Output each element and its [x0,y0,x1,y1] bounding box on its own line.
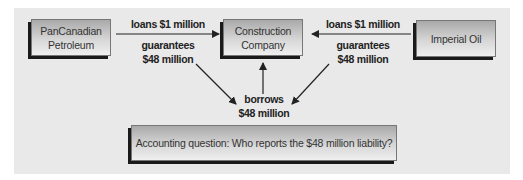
left-guarantee-label-1: guarantees [128,38,208,52]
right-guarantee-label-2: $48 million [323,52,403,66]
pancanadian-line2: Petroleum [40,38,101,52]
left-guarantee-label-2: $48 million [128,52,208,66]
imperial-oil-box: Imperial Oil [416,20,496,57]
accounting-question-text: Accounting question: Who reports the $48… [136,136,393,150]
pancanadian-line1: PanCanadian [40,24,101,38]
borrows-label-2: $48 million [224,106,304,120]
right-loan-label: loans $1 million [323,17,403,31]
construction-company-box: Construction Company [223,19,303,56]
pancanadian-petroleum-box: PanCanadian Petroleum [31,19,111,56]
imperial-line1: Imperial Oil [431,32,482,46]
construction-line2: Company [235,38,292,52]
construction-line1: Construction [235,24,292,38]
right-guarantee-label-1: guarantees [323,38,403,52]
left-loan-label: loans $1 million [128,17,208,31]
accounting-question-box: Accounting question: Who reports the $48… [131,125,397,161]
borrows-label-1: borrows [224,92,304,106]
